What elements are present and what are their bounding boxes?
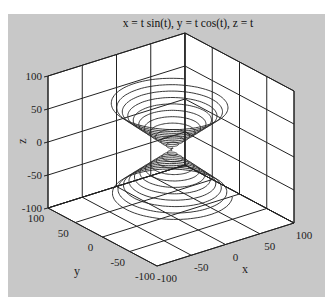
- y-tick-label: -50: [110, 256, 125, 268]
- plot-3d: -100-50050100-100-50050100-100-50050100 …: [0, 0, 335, 307]
- z-tick-label: 0: [37, 136, 43, 148]
- x-tick-label: 50: [264, 240, 276, 252]
- z-tick-mark: [44, 175, 48, 176]
- z-tick-mark: [44, 208, 48, 209]
- z-tick-label: 100: [26, 70, 43, 82]
- chart-title: x = t sin(t), y = t cos(t), z = t: [123, 17, 254, 30]
- y-tick-label: 100: [28, 212, 45, 224]
- z-tick-mark: [44, 142, 48, 143]
- y-tick-label: 50: [58, 227, 70, 239]
- z-tick-mark: [44, 109, 48, 110]
- z-tick-label: -50: [27, 169, 42, 181]
- y-axis-label: y: [74, 264, 80, 278]
- x-tick-label: -100: [157, 272, 178, 284]
- x-tick-label: -50: [194, 261, 209, 273]
- x-tick-label: 0: [233, 251, 239, 263]
- x-axis-label: x: [242, 262, 248, 276]
- y-tick-label: -100: [135, 270, 156, 282]
- z-axis-label: z: [15, 138, 29, 143]
- z-tick-mark: [44, 76, 48, 77]
- z-tick-label: 50: [31, 103, 43, 115]
- y-tick-label: 0: [88, 241, 94, 253]
- x-tick-label: 100: [296, 229, 313, 241]
